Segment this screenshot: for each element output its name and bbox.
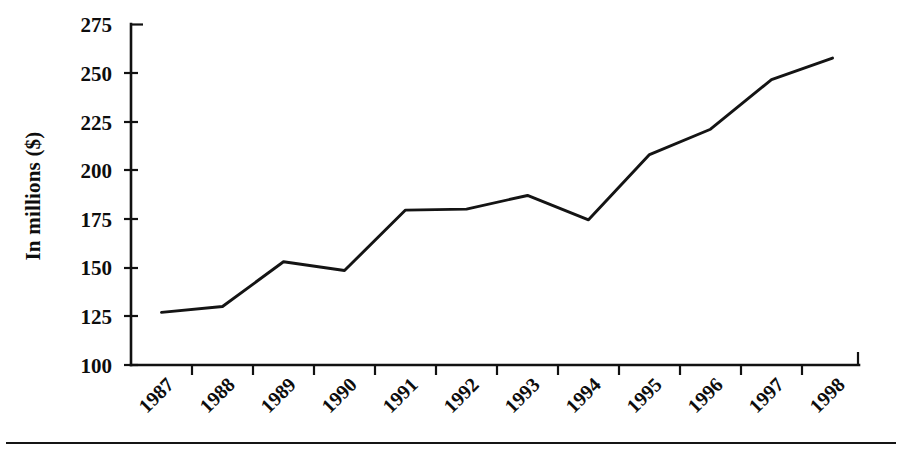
data-series-line: [162, 58, 833, 312]
y-tick-label-100: 100: [81, 354, 113, 378]
x-axis-tick-labels: 1987 1988 1989 1990 1991 1992 1993 1994 …: [134, 373, 849, 417]
line-chart-svg: In millions ($) 275 250 225 200 175 150 …: [0, 0, 909, 458]
x-tick-label-1994: 1994: [561, 373, 605, 417]
y-axis-title-group: In millions ($): [21, 131, 45, 260]
y-tick-label-275: 275: [81, 13, 113, 37]
y-tick-label-225: 225: [81, 111, 113, 135]
y-axis-title: In millions ($): [21, 131, 45, 260]
x-tick-label-1996: 1996: [683, 373, 727, 417]
y-tick-label-125: 125: [81, 305, 113, 329]
x-tick-label-1991: 1991: [378, 373, 422, 417]
x-tick-label-1987: 1987: [134, 373, 178, 417]
chart-figure: In millions ($) 275 250 225 200 175 150 …: [0, 0, 909, 458]
x-tick-label-1993: 1993: [500, 373, 544, 417]
x-tick-label-1997: 1997: [744, 373, 788, 417]
x-tick-label-1992: 1992: [439, 373, 483, 417]
x-tick-label-1990: 1990: [317, 373, 361, 417]
y-axis-tick-labels: 275 250 225 200 175 150 125 100: [81, 13, 113, 378]
y-tick-label-175: 175: [81, 208, 113, 232]
x-tick-label-1989: 1989: [256, 373, 300, 417]
y-tick-label-250: 250: [81, 62, 113, 86]
y-tick-label-200: 200: [81, 159, 113, 183]
x-tick-label-1988: 1988: [195, 373, 239, 417]
x-tick-label-1995: 1995: [622, 373, 666, 417]
x-tick-label-1998: 1998: [805, 373, 849, 417]
y-tick-label-150: 150: [81, 256, 113, 280]
